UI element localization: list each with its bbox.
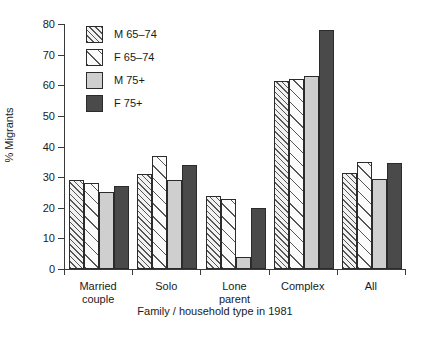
y-tick-label: 70 [43, 49, 55, 60]
legend-item: M 65–74 [86, 24, 206, 47]
y-tick-label: 40 [43, 141, 55, 152]
bar [221, 199, 236, 269]
bar [167, 180, 182, 269]
legend-swatch [86, 26, 103, 43]
y-tick-label: 10 [43, 233, 55, 244]
x-category-label-line: couple [64, 293, 132, 306]
x-group-separator [337, 269, 338, 275]
bar [319, 30, 334, 269]
bar [304, 76, 319, 269]
x-group-separator [132, 269, 133, 275]
y-tick-label: 20 [43, 202, 55, 213]
bar [342, 173, 357, 269]
x-category-label-line: Complex [269, 280, 337, 293]
legend-swatch [86, 49, 103, 66]
bar-chart-figure: 01020304050607080 MarriedcoupleSoloLonep… [0, 0, 430, 342]
legend-swatch [86, 95, 103, 112]
x-category-label-line: Lone [200, 280, 268, 293]
bar [152, 156, 167, 269]
y-tick-label: 80 [43, 19, 55, 30]
bar [357, 162, 372, 269]
bar [182, 165, 197, 269]
x-category-label-line: Solo [132, 280, 200, 293]
bar [387, 163, 402, 269]
legend-swatch [86, 72, 103, 89]
x-category-label: All [337, 280, 405, 293]
legend: M 65–74F 65–74M 75+F 75+ [86, 24, 206, 116]
x-category-label: Marriedcouple [64, 280, 132, 305]
y-tick-mark [58, 177, 64, 178]
x-group-separator [269, 269, 270, 275]
x-axis-line [64, 269, 406, 270]
bar [206, 196, 221, 270]
bar [274, 81, 289, 269]
y-tick-mark [58, 116, 64, 117]
bar [251, 208, 266, 269]
x-category-label-line: All [337, 280, 405, 293]
legend-item: M 75+ [86, 70, 206, 93]
legend-label: F 75+ [114, 96, 142, 111]
bar [69, 180, 84, 269]
legend-item: F 75+ [86, 93, 206, 116]
bar [99, 192, 114, 269]
bar [372, 179, 387, 269]
y-axis-label: % Migrants [3, 107, 15, 162]
x-axis-end-tick [405, 269, 406, 275]
bar [137, 174, 152, 269]
y-tick-mark [58, 147, 64, 148]
y-tick-mark [58, 55, 64, 56]
y-tick-mark [58, 24, 64, 25]
x-category-label: Loneparent [200, 280, 268, 305]
y-tick-label: 60 [43, 80, 55, 91]
x-group-separator [200, 269, 201, 275]
x-category-label-line: Married [64, 280, 132, 293]
legend-item: F 65–74 [86, 47, 206, 70]
bar [84, 183, 99, 269]
legend-label: M 65–74 [114, 27, 157, 42]
y-tick-label: 0 [49, 264, 55, 275]
x-category-label-line: parent [200, 293, 268, 306]
y-tick-mark [58, 85, 64, 86]
bar-group [206, 24, 266, 269]
x-category-label: Solo [132, 280, 200, 293]
y-tick-label: 50 [43, 110, 55, 121]
x-axis-end-tick [64, 269, 65, 275]
bar-group [342, 24, 402, 269]
x-axis-label: Family / household type in 1981 [0, 305, 430, 317]
legend-label: M 75+ [114, 73, 145, 88]
y-tick-label: 30 [43, 172, 55, 183]
x-category-label: Complex [269, 280, 337, 293]
legend-label: F 65–74 [114, 50, 154, 65]
bar [289, 79, 304, 269]
y-tick-mark [58, 238, 64, 239]
bar-group [274, 24, 334, 269]
bar [236, 257, 251, 269]
y-tick-mark [58, 208, 64, 209]
bar [114, 186, 129, 269]
